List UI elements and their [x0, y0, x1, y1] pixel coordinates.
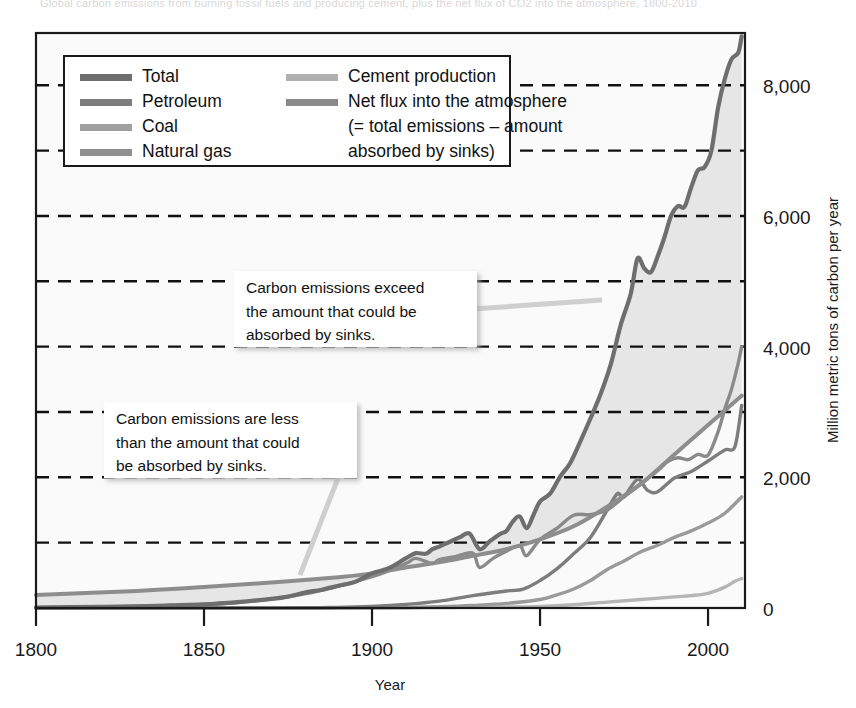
legend-label-net-flux-into-the-atmosphere: Net flux into the atmosphere	[348, 91, 567, 111]
y-axis: 02,0004,0006,0008,000	[763, 76, 811, 620]
callout-exceed-line-2: the amount that could be	[246, 303, 417, 320]
figure-top-caption: Global carbon emissions from burning fos…	[40, 0, 830, 11]
callout-less-line-3: be absorbed by sinks.	[116, 457, 267, 474]
callout-less-line-2: than the amount that could	[116, 434, 300, 451]
callout-exceed-line-3: absorbed by sinks.	[246, 326, 375, 343]
x-tick-label-1950: 1950	[519, 639, 561, 660]
x-tick-label-1900: 1900	[351, 639, 393, 660]
legend-label-natural-gas: Natural gas	[142, 141, 232, 161]
legend-swatch-petroleum	[80, 99, 132, 106]
x-tick-label-1850: 1850	[183, 639, 225, 660]
x-tick-label-1800: 1800	[15, 639, 57, 660]
legend-label-coal: Coal	[142, 116, 178, 136]
legend-swatch-natural-gas	[80, 149, 132, 156]
legend-label-petroleum: Petroleum	[142, 91, 222, 111]
y-tick-label-6000: 6,000	[763, 207, 811, 228]
legend-swatch-total	[80, 74, 132, 81]
legend-label-cement-production: Cement production	[348, 66, 496, 86]
callout-exceed-line-1: Carbon emissions exceed	[246, 279, 424, 296]
carbon-emissions-chart: 18001850190019502000 02,0004,0006,0008,0…	[0, 0, 856, 708]
legend-swatch-net-flux-into-the-atmosphere	[286, 99, 338, 106]
y-axis-title: Million metric tons of carbon per year	[824, 197, 841, 443]
x-axis: 18001850190019502000	[15, 608, 729, 660]
x-axis-title: Year	[375, 676, 405, 693]
y-tick-label-0: 0	[763, 599, 774, 620]
legend-label-total-emissions-amount: (= total emissions – amount	[348, 116, 563, 136]
legend-swatch-cement-production	[286, 74, 338, 81]
y-tick-label-2000: 2,000	[763, 468, 811, 489]
y-tick-label-8000: 8,000	[763, 76, 811, 97]
chart-legend: TotalPetroleumCoalNatural gasCement prod…	[64, 56, 567, 166]
callout-less-line-1: Carbon emissions are less	[116, 410, 299, 427]
legend-swatch-coal	[80, 124, 132, 131]
legend-label-total: Total	[142, 66, 179, 86]
y-tick-label-4000: 4,000	[763, 338, 811, 359]
x-tick-label-2000: 2000	[687, 639, 729, 660]
figure-root: Global carbon emissions from burning fos…	[0, 0, 856, 708]
legend-label-absorbed-by-sinks: absorbed by sinks)	[348, 141, 495, 161]
